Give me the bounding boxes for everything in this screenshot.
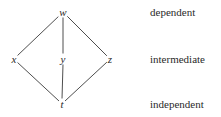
- level-label-dependent: dependent: [150, 7, 195, 18]
- node-z: z: [107, 54, 113, 65]
- level-label-independent: independent: [150, 99, 204, 110]
- node-t: t: [59, 99, 64, 110]
- node-w: w: [58, 7, 67, 18]
- edge-w-z: [66, 15, 107, 56]
- edge-x-t: [17, 62, 59, 101]
- level-label-intermediate: intermediate: [150, 54, 205, 65]
- node-x: x: [11, 54, 18, 65]
- edge-z-t: [65, 62, 107, 101]
- node-y: y: [60, 54, 67, 65]
- edge-y-t: [62, 64, 63, 99]
- edge-w-x: [17, 15, 60, 56]
